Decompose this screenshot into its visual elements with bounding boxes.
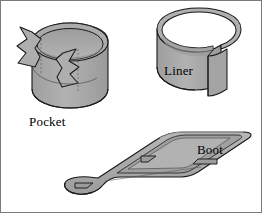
figure-frame: Pocket Liner Boot [0,0,262,213]
part-pocket [17,23,108,108]
label-liner: Liner [164,63,193,79]
liner-right-panel [208,49,227,96]
boot-tab-right [193,159,217,164]
label-pocket: Pocket [29,114,66,130]
label-boot: Boot [197,142,223,158]
part-liner [157,8,241,96]
parts-illustration [1,1,262,213]
